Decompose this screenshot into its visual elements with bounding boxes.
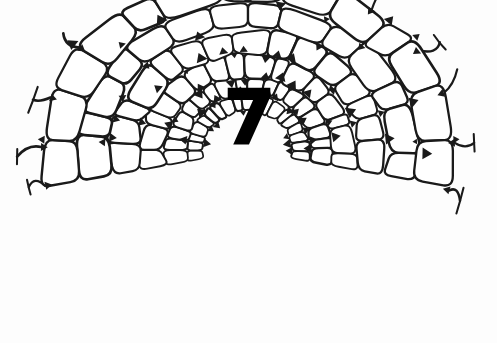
cell xyxy=(356,115,383,141)
cell xyxy=(77,135,112,180)
cell-cross-section-diagram xyxy=(0,0,497,343)
figure-root: 7 xyxy=(0,0,497,343)
cell xyxy=(291,151,310,161)
cell xyxy=(242,96,255,110)
cell xyxy=(331,153,357,169)
cell xyxy=(310,148,332,165)
wall-stub-tick xyxy=(474,134,475,152)
cell xyxy=(138,150,166,169)
cell xyxy=(414,140,453,185)
cell xyxy=(210,3,248,28)
junction-thickening xyxy=(244,0,253,2)
cell xyxy=(356,140,384,174)
cell xyxy=(411,86,451,141)
cell xyxy=(248,3,281,28)
cell xyxy=(232,30,270,55)
cell xyxy=(187,150,203,160)
cell xyxy=(220,0,286,2)
